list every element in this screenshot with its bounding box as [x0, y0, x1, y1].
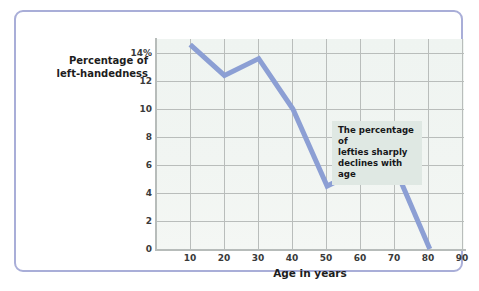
gridline-x-80	[428, 39, 429, 249]
x-tick-label: 70	[382, 253, 406, 263]
x-tick-label: 30	[246, 253, 270, 263]
chart-annotation: The percentage of lefties sharply declin…	[332, 121, 422, 185]
y-tick-label: 2	[116, 216, 152, 226]
gridline-x-40	[292, 39, 293, 249]
gridline-y-14	[156, 53, 464, 54]
x-tick-label: 90	[450, 253, 474, 263]
chart-figure: 14% 12 10 8 6 4 2 0 10 20 30 40 50 60 70…	[0, 0, 479, 291]
gridline-y-4	[156, 193, 464, 194]
y-tick-label: 4	[116, 188, 152, 198]
y-axis-title-line1: Percentage of	[38, 55, 148, 68]
y-tick-label: 10	[116, 104, 152, 114]
gridline-x-20	[224, 39, 225, 249]
y-tick-label: 6	[116, 160, 152, 170]
x-axis-line	[155, 249, 466, 251]
x-tick-label: 20	[212, 253, 236, 263]
x-axis-title: Age in years	[156, 267, 464, 279]
y-tick-labels: 14% 12 10 8 6 4 2 0	[112, 12, 152, 291]
y-axis-title: Percentage of left-handedness	[38, 55, 148, 80]
gridline-y-10	[156, 109, 464, 110]
gridline-x-50	[326, 39, 327, 249]
y-axis-line	[155, 38, 157, 251]
y-tick-label: 8	[116, 132, 152, 142]
annotation-line2: lefties sharply	[338, 147, 417, 158]
gridline-x-10	[190, 39, 191, 249]
annotation-line1: The percentage of	[338, 125, 417, 147]
y-tick-label: 0	[116, 244, 152, 254]
annotation-line3: declines with age	[338, 158, 417, 180]
x-tick-label: 50	[314, 253, 338, 263]
gridline-x-30	[258, 39, 259, 249]
gridline-y-12	[156, 81, 464, 82]
gridline-y-2	[156, 221, 464, 222]
y-axis-title-line2: left-handedness	[38, 68, 148, 81]
x-tick-label: 60	[348, 253, 372, 263]
x-tick-label: 40	[280, 253, 304, 263]
chart-frame: 14% 12 10 8 6 4 2 0 10 20 30 40 50 60 70…	[14, 10, 463, 272]
gridline-x-90	[462, 39, 463, 249]
x-tick-label: 80	[416, 253, 440, 263]
x-tick-label: 10	[178, 253, 202, 263]
